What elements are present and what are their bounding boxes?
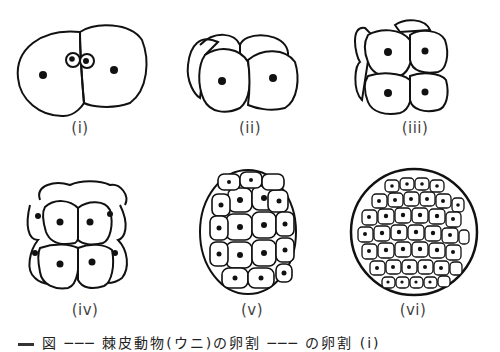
panel-iii-drawing bbox=[355, 20, 448, 114]
panel-label-v: (v) bbox=[241, 301, 263, 319]
panel-i-drawing bbox=[18, 25, 147, 116]
caption-text: 図 ─── 棘皮動物(ウニ)の卵割 ─── の卵割 (i) bbox=[42, 335, 381, 351]
panel-label-ii: (ii) bbox=[239, 119, 261, 137]
panel-label-vi: (vi) bbox=[400, 301, 427, 319]
caption-marker bbox=[18, 343, 34, 346]
panel-v-drawing bbox=[200, 170, 296, 294]
panel-ii-drawing bbox=[188, 35, 298, 112]
panel-label-iv: (iv) bbox=[72, 301, 99, 319]
panel-label-i: (i) bbox=[71, 119, 88, 137]
panel-iv-drawing bbox=[28, 181, 127, 288]
panel-label-iii: (iii) bbox=[402, 119, 429, 137]
panel-vi-drawing bbox=[351, 169, 477, 295]
figure-caption: 図 ─── 棘皮動物(ウニ)の卵割 ─── の卵割 (i) bbox=[18, 332, 381, 352]
